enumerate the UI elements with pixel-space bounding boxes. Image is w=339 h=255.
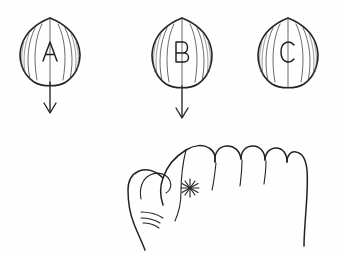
foot-toe-4-crease bbox=[264, 161, 266, 184]
foot-toe-crease bbox=[175, 150, 186, 221]
seed-c-group[interactable] bbox=[258, 18, 318, 88]
seed-c-grain-line bbox=[266, 28, 273, 81]
foot-toe-2-crease bbox=[212, 163, 216, 190]
seed-a-grain-line bbox=[28, 28, 35, 79]
seed-b-grain-line bbox=[160, 28, 167, 81]
foot-skin-fold-line bbox=[143, 223, 159, 228]
foot-toe-5-and-outer-edge bbox=[287, 152, 307, 246]
seed-c-letter bbox=[281, 42, 294, 62]
seed-b-arrow bbox=[176, 86, 188, 118]
asterisk-marker-icon[interactable] bbox=[181, 179, 199, 197]
foot-big-toe-outline bbox=[161, 146, 216, 205]
diagram-svg bbox=[0, 0, 339, 255]
foot-skin-fold-line bbox=[141, 218, 160, 223]
foot-toe-3 bbox=[241, 146, 265, 160]
foot-toe-3-crease bbox=[240, 160, 242, 186]
foot-toe-4 bbox=[265, 148, 287, 162]
seed-a-grain-line bbox=[65, 28, 72, 79]
seed-b-grain-line bbox=[190, 24, 197, 82]
foot-toe-2 bbox=[215, 146, 241, 162]
seed-b-group[interactable] bbox=[152, 18, 212, 88]
seed-c-grain-line bbox=[273, 24, 280, 82]
foot-inner-edge bbox=[128, 170, 163, 250]
seed-c-grain-line bbox=[296, 24, 303, 82]
seed-a-group[interactable] bbox=[20, 18, 80, 86]
seed-a-arrow bbox=[44, 82, 56, 113]
foot-illustration[interactable] bbox=[128, 146, 307, 250]
foot-toenail bbox=[140, 173, 170, 199]
seed-c-grain-line bbox=[303, 28, 310, 81]
figure-canvas: Three seeds labelled A, B and C with arr… bbox=[0, 0, 339, 255]
seed-b-grain-line bbox=[197, 28, 204, 81]
seed-b-grain-line bbox=[167, 24, 174, 82]
seed-a-grain-line bbox=[35, 24, 42, 80]
seed-a-grain-line bbox=[58, 24, 65, 80]
foot-skin-fold-line bbox=[141, 212, 163, 218]
